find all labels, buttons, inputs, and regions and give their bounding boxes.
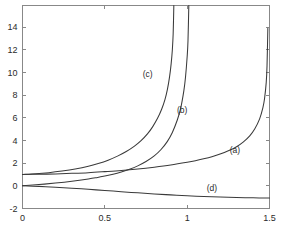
- curve-labels: (a)(b)(c)(d): [143, 69, 241, 193]
- axes-frame: [23, 6, 270, 209]
- x-tick-label: 1: [185, 213, 190, 223]
- y-tick-label: 0: [12, 181, 17, 191]
- curve-label-c: (c): [143, 69, 153, 79]
- y-tick-label: 12: [7, 45, 17, 55]
- curve-d: [23, 186, 270, 198]
- y-tick-label: 10: [7, 68, 17, 78]
- y-tick-label: 4: [12, 136, 17, 146]
- figure-canvas: (a)(b)(c)(d) 00.511.5 -202468101214: [0, 0, 281, 235]
- y-axis-ticks: [23, 27, 270, 208]
- plot-area: (a)(b)(c)(d) 00.511.5 -202468101214: [0, 0, 281, 235]
- x-tick-label: 1.5: [263, 213, 276, 223]
- curve-label-a: (a): [230, 145, 241, 155]
- y-tick-label: 14: [7, 22, 17, 32]
- curve-c: [23, 6, 174, 175]
- curve-b: [23, 6, 189, 186]
- x-tick-labels: 00.511.5: [20, 213, 276, 223]
- x-axis-ticks: [23, 6, 270, 209]
- y-tick-label: 6: [12, 113, 17, 123]
- curve-label-d: (d): [207, 183, 218, 193]
- y-tick-labels: -202468101214: [7, 22, 17, 213]
- y-tick-label: 8: [12, 90, 17, 100]
- curve-label-b: (b): [177, 105, 188, 115]
- axes-box: [23, 6, 270, 209]
- x-tick-label: 0.5: [99, 213, 112, 223]
- y-tick-label: -2: [9, 204, 17, 214]
- data-curves: [23, 6, 270, 199]
- x-tick-label: 0: [20, 213, 25, 223]
- y-tick-label: 2: [12, 158, 17, 168]
